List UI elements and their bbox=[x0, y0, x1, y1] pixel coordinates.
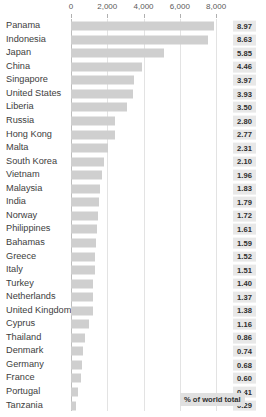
bar bbox=[71, 252, 95, 261]
bar bbox=[71, 266, 95, 275]
chart-row: Thailand0.86 bbox=[0, 331, 266, 345]
x-axis-tick-label: 2,000 bbox=[97, 2, 117, 11]
category-label: Italy bbox=[6, 265, 23, 274]
bar bbox=[71, 49, 164, 58]
category-label: Tanzania bbox=[6, 401, 43, 410]
value-label: 1.16 bbox=[233, 319, 256, 330]
category-label: Netherlands bbox=[6, 293, 56, 302]
bar bbox=[71, 198, 99, 207]
chart-row: Denmark0.74 bbox=[0, 344, 266, 358]
value-label: 3.93 bbox=[233, 89, 256, 100]
chart-row: United Kingdom1.38 bbox=[0, 304, 266, 318]
category-label: Indonesia bbox=[6, 35, 46, 44]
tick-mark bbox=[216, 14, 217, 18]
x-axis-tick-label: 0 bbox=[69, 2, 73, 11]
tick-mark bbox=[180, 14, 181, 18]
bar bbox=[71, 117, 115, 126]
chart-row: Russia2.80 bbox=[0, 114, 266, 128]
chart-row: Indonesia8.63 bbox=[0, 33, 266, 47]
bar bbox=[71, 62, 142, 71]
category-label: Singapore bbox=[6, 76, 48, 85]
tick-mark bbox=[107, 14, 108, 18]
x-axis-tick-label: 8,000 bbox=[206, 2, 226, 11]
chart-row: India1.79 bbox=[0, 195, 266, 209]
category-label: Hong Kong bbox=[6, 130, 52, 139]
category-label: Norway bbox=[6, 211, 37, 220]
category-label: Malta bbox=[6, 144, 28, 153]
tick-mark bbox=[144, 14, 145, 18]
chart-row: Malaysia1.83 bbox=[0, 182, 266, 196]
bar bbox=[71, 103, 127, 112]
category-label: South Korea bbox=[6, 157, 57, 166]
chart-row: China4.46 bbox=[0, 60, 266, 74]
chart-row: Vietnam1.96 bbox=[0, 168, 266, 182]
chart-row: Turkey1.40 bbox=[0, 276, 266, 290]
category-label: Vietnam bbox=[6, 171, 40, 180]
category-label: Russia bbox=[6, 116, 34, 125]
value-label: 0.68 bbox=[233, 360, 256, 371]
bar bbox=[71, 157, 104, 166]
bar bbox=[71, 89, 133, 98]
category-label: India bbox=[6, 198, 26, 207]
category-label: Philippines bbox=[6, 225, 50, 234]
bar bbox=[71, 320, 89, 329]
value-label: 1.61 bbox=[233, 224, 256, 235]
bar bbox=[71, 238, 96, 247]
chart-row: Liberia3.50 bbox=[0, 100, 266, 114]
value-label: 1.72 bbox=[233, 210, 256, 221]
chart-row: Germany0.68 bbox=[0, 358, 266, 372]
bar bbox=[71, 22, 214, 31]
value-label: 1.51 bbox=[233, 265, 256, 276]
value-label: 8.97 bbox=[233, 21, 256, 32]
category-label: Malaysia bbox=[6, 184, 42, 193]
chart-row: France0.60 bbox=[0, 371, 266, 385]
chart-row: Japan5.85 bbox=[0, 46, 266, 60]
value-label: 1.59 bbox=[233, 238, 256, 249]
category-label: United Kingdom bbox=[6, 306, 71, 315]
x-axis-tick-label: 6,000 bbox=[170, 2, 190, 11]
bar bbox=[71, 130, 115, 139]
horizontal-bar-chart: 02,0004,0006,0008,000 Panama8.97Indonesi… bbox=[0, 0, 266, 417]
chart-row: Bahamas1.59 bbox=[0, 236, 266, 250]
chart-row: United States3.93 bbox=[0, 87, 266, 101]
value-label: 2.80 bbox=[233, 116, 256, 127]
value-label: 2.31 bbox=[233, 143, 256, 154]
category-label: Panama bbox=[6, 22, 40, 31]
legend-label: % of world total bbox=[180, 393, 245, 406]
bar bbox=[71, 347, 83, 356]
bar bbox=[71, 76, 134, 85]
bar bbox=[71, 360, 82, 369]
category-label: Portugal bbox=[6, 387, 40, 396]
category-label: United States bbox=[6, 89, 61, 98]
value-label: 5.85 bbox=[233, 48, 256, 59]
value-label: 0.86 bbox=[233, 332, 256, 343]
category-label: Liberia bbox=[6, 103, 34, 112]
chart-row: Hong Kong2.77 bbox=[0, 127, 266, 141]
chart-row: Panama8.97 bbox=[0, 19, 266, 33]
value-label: 1.83 bbox=[233, 183, 256, 194]
bar bbox=[71, 401, 76, 410]
chart-row: Norway1.72 bbox=[0, 209, 266, 223]
x-axis-tick-label: 4,000 bbox=[134, 2, 154, 11]
category-label: Japan bbox=[6, 49, 31, 58]
category-label: Turkey bbox=[6, 279, 34, 288]
value-label: 2.77 bbox=[233, 129, 256, 140]
chart-row: Cyprus1.16 bbox=[0, 317, 266, 331]
value-label: 8.63 bbox=[233, 34, 256, 45]
value-label: 1.96 bbox=[233, 170, 256, 181]
bar bbox=[71, 171, 102, 180]
category-label: Denmark bbox=[6, 347, 43, 356]
bar bbox=[71, 279, 93, 288]
value-label: 1.52 bbox=[233, 251, 256, 262]
chart-row: Singapore3.97 bbox=[0, 73, 266, 87]
bar bbox=[71, 184, 100, 193]
chart-row: Greece1.52 bbox=[0, 249, 266, 263]
chart-row: Malta2.31 bbox=[0, 141, 266, 155]
category-label: Greece bbox=[6, 252, 36, 261]
value-label: 4.46 bbox=[233, 61, 256, 72]
bar bbox=[71, 333, 85, 342]
value-label: 2.10 bbox=[233, 156, 256, 167]
category-label: Bahamas bbox=[6, 238, 45, 247]
category-label: Cyprus bbox=[6, 320, 35, 329]
value-label: 3.97 bbox=[233, 75, 256, 86]
